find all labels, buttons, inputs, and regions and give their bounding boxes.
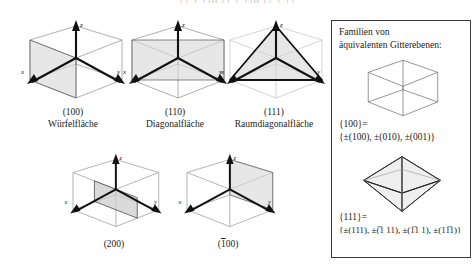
cube-diagram-minus100: z x y <box>172 152 284 234</box>
axis-label-y: y <box>153 198 157 205</box>
figure-page: (1 1 1)H (1 1 1)H (1 1 1) <box>0 0 475 269</box>
arrowhead-z-111 <box>272 20 280 31</box>
label-100-family-head: {100}= <box>339 119 368 129</box>
equivalent-planes-panel: Familien von äquivalenten Gitterebenen: … <box>331 20 471 258</box>
axis-label-z: z <box>279 21 283 29</box>
panel-octahedron-figure <box>356 153 448 219</box>
caption-100: (100) Würfelfläche <box>18 106 128 130</box>
clipped-header-text: (1 1 1)H (1 1 1)H (1 1 1) <box>0 0 475 3</box>
axis-label-y: y <box>267 198 271 205</box>
octahedron-111-family <box>356 153 448 215</box>
arrowhead-z-100 <box>72 20 80 31</box>
axis-label-y: y <box>316 68 321 76</box>
panel-title-line2: äquivalenten Gitterebenen: <box>339 39 467 52</box>
axis-label-z: z <box>181 21 185 29</box>
axis-label-z: z <box>233 154 237 161</box>
axis-label-x: x <box>20 68 25 76</box>
caption-200: (200) <box>58 238 170 250</box>
plane-minus100 <box>230 159 273 209</box>
axis-label-x: x <box>122 68 127 76</box>
arrowhead-z-minus100 <box>226 154 233 164</box>
label-111-family-head: {111}= <box>339 212 367 222</box>
figure-minus100: z x y <box>172 152 284 234</box>
caption-200-index: (200) <box>58 238 170 250</box>
axis-label-x: x <box>220 68 225 76</box>
figure-111: z x y <box>218 18 330 106</box>
caption-100-index: (100) <box>18 106 128 118</box>
cube-outline-100-family <box>359 55 447 121</box>
panel-cube-figure <box>359 55 447 125</box>
figure-110: z x y <box>120 18 230 106</box>
cube-diagram-100: z x y <box>18 18 128 106</box>
plane-100 <box>30 40 76 98</box>
cube-diagram-111: z x y <box>218 18 330 106</box>
panel-title: Familien von äquivalenten Gitterebenen: <box>339 26 467 51</box>
axis-label-z: z <box>119 154 123 161</box>
figure-100: z x y <box>18 18 128 106</box>
arrowhead-z-200 <box>112 154 119 164</box>
axis-label-x: x <box>178 198 182 205</box>
caption-minus100-index: (100) <box>172 238 284 250</box>
label-100-family: {100}= {±(100), ±(010), ±(001)} <box>339 118 435 143</box>
axis-label-z: z <box>79 21 83 29</box>
cube-diagram-200: z x y <box>58 152 170 234</box>
label-100-family-set: {±(100), ±(010), ±(001)} <box>339 131 435 144</box>
caption-minus100: (100) <box>172 238 284 250</box>
arrowhead-z-110 <box>174 20 182 31</box>
caption-111: (111) Raumdiagonalfläche <box>214 106 334 130</box>
label-111-family-set: {±(111), ±(̅1 11), ±(1̅1 1), ±(11̅1)} <box>339 224 461 237</box>
label-111-family: {111}= {±(111), ±(̅1 11), ±(1̅1 1), ±(11… <box>339 211 461 236</box>
figure-200: z x y <box>58 152 170 234</box>
caption-100-name: Würfelfläche <box>18 118 128 130</box>
cube-diagram-110: z x y <box>120 18 230 106</box>
caption-111-name: Raumdiagonalfläche <box>214 118 334 130</box>
caption-111-index: (111) <box>214 106 334 118</box>
panel-title-line1: Familien von <box>339 26 467 39</box>
axis-label-x: x <box>64 198 68 205</box>
caption-minus100-post: 00) <box>226 239 239 249</box>
